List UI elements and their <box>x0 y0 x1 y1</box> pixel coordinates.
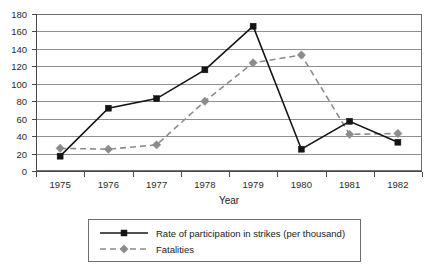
chart-canvas: 020406080100120140160180 197519761977197… <box>0 0 446 269</box>
data-point <box>395 139 401 145</box>
x-axis-title: Year <box>219 195 240 206</box>
x-tick-label: 1977 <box>146 179 167 190</box>
data-point <box>345 130 353 138</box>
data-point <box>56 144 64 152</box>
data-point <box>202 67 208 73</box>
legend-border <box>89 220 361 262</box>
y-tick-label: 60 <box>16 114 27 125</box>
data-point <box>105 105 111 111</box>
x-axis: 19751976197719781979198019811982 <box>36 172 423 191</box>
gridlines <box>36 15 422 172</box>
chart-legend: Rate of participation in strikes (per th… <box>89 220 361 262</box>
y-tick-label: 100 <box>11 79 27 90</box>
y-tick-label: 180 <box>11 9 27 20</box>
data-point <box>298 146 304 152</box>
y-tick-label: 80 <box>16 96 27 107</box>
y-tick-label: 160 <box>11 26 27 37</box>
legend-entry-label: Fatalities <box>156 244 194 255</box>
data-point <box>347 118 353 124</box>
y-axis: 020406080100120140160180 <box>11 9 36 177</box>
y-tick-label: 40 <box>16 131 27 142</box>
data-point <box>297 51 305 59</box>
data-point <box>154 96 160 102</box>
y-tick-label: 20 <box>16 149 27 160</box>
x-tick-label: 1979 <box>243 179 264 190</box>
plot-area-border <box>37 15 422 171</box>
x-tick-label: 1981 <box>339 179 360 190</box>
x-tick-label: 1975 <box>50 179 71 190</box>
x-tick-label: 1978 <box>194 179 215 190</box>
legend-marker-sample <box>121 230 127 236</box>
y-tick-label: 120 <box>11 61 27 72</box>
legend-entry-label: Rate of participation in strikes (per th… <box>156 228 345 239</box>
data-point <box>57 153 63 159</box>
data-point <box>249 59 257 67</box>
data-point <box>250 23 256 29</box>
line-chart: 020406080100120140160180 197519761977197… <box>0 0 446 269</box>
data-point <box>104 145 112 153</box>
y-tick-label: 0 <box>22 166 27 177</box>
x-tick-label: 1976 <box>98 179 119 190</box>
y-tick-label: 140 <box>11 44 27 55</box>
series-participation-rate <box>57 23 401 159</box>
x-tick-label: 1980 <box>291 179 312 190</box>
x-tick-label: 1982 <box>387 179 408 190</box>
data-series-group <box>56 23 402 159</box>
